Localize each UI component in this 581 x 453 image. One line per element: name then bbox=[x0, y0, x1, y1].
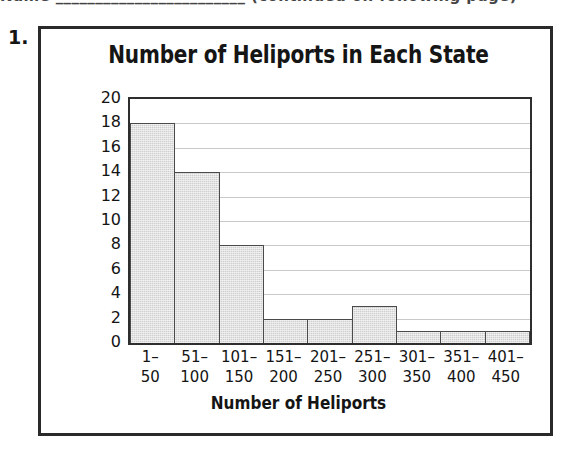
bar bbox=[130, 123, 175, 343]
y-tick-label: 14 bbox=[85, 163, 121, 179]
x-tick-label-line: 50 bbox=[128, 367, 172, 387]
y-tick-label: 16 bbox=[85, 139, 121, 155]
x-tick-label: 351–400 bbox=[439, 347, 483, 387]
plot-area bbox=[128, 97, 532, 345]
x-tick-label-line: 150 bbox=[217, 367, 261, 387]
page-header-text: Name ________________________ (continued… bbox=[0, 0, 581, 5]
bar bbox=[396, 331, 441, 343]
x-tick-label-line: 251– bbox=[350, 347, 394, 367]
x-tick-label-line: 400 bbox=[439, 367, 483, 387]
y-tick-label: 10 bbox=[85, 212, 121, 228]
bar bbox=[174, 172, 219, 343]
x-tick-label-line: 101– bbox=[217, 347, 261, 367]
y-tick-label: 20 bbox=[85, 90, 121, 106]
bar bbox=[219, 245, 264, 343]
page-header-cutoff: Name ________________________ (continued… bbox=[0, 0, 581, 5]
y-tick-label: 12 bbox=[85, 188, 121, 204]
x-tick-label: 1–50 bbox=[128, 347, 172, 387]
x-tick-label-line: 1– bbox=[128, 347, 172, 367]
bar bbox=[440, 331, 485, 343]
x-tick-label-line: 300 bbox=[350, 367, 394, 387]
x-tick-label-line: 301– bbox=[395, 347, 439, 367]
bar bbox=[307, 319, 352, 343]
figure-frame: Number of Heliports in Each State Number… bbox=[38, 26, 553, 436]
x-tick-label: 301–350 bbox=[395, 347, 439, 387]
x-tick-label-line: 401– bbox=[484, 347, 528, 367]
y-tick-label: 4 bbox=[85, 285, 121, 301]
x-axis-ticks: 1–5051–100101–150151–200201–250251–30030… bbox=[128, 347, 528, 387]
x-axis-title: Number of Heliports bbox=[41, 393, 556, 413]
y-tick-label: 2 bbox=[85, 310, 121, 326]
x-tick-label-line: 450 bbox=[484, 367, 528, 387]
bar-series bbox=[130, 99, 530, 343]
x-tick-label-line: 250 bbox=[306, 367, 350, 387]
x-tick-label-line: 351– bbox=[439, 347, 483, 367]
x-tick-label: 201–250 bbox=[306, 347, 350, 387]
x-tick-label-line: 200 bbox=[261, 367, 305, 387]
x-tick-label: 251–300 bbox=[350, 347, 394, 387]
y-tick-label: 0 bbox=[85, 334, 121, 350]
y-tick-label: 18 bbox=[85, 114, 121, 130]
x-tick-label: 101–150 bbox=[217, 347, 261, 387]
x-tick-label-line: 51– bbox=[172, 347, 216, 367]
chart-title: Number of Heliports in Each State bbox=[59, 41, 538, 69]
bar bbox=[352, 306, 397, 343]
y-tick-label: 6 bbox=[85, 261, 121, 277]
x-tick-label: 401–450 bbox=[484, 347, 528, 387]
x-tick-label-line: 100 bbox=[172, 367, 216, 387]
x-tick-label-line: 350 bbox=[395, 367, 439, 387]
problem-number: 1. bbox=[8, 26, 28, 48]
x-tick-label-line: 151– bbox=[261, 347, 305, 367]
bar bbox=[263, 319, 308, 343]
bar bbox=[485, 331, 530, 343]
x-tick-label: 51–100 bbox=[172, 347, 216, 387]
x-tick-label-line: 201– bbox=[306, 347, 350, 367]
x-tick-label: 151–200 bbox=[261, 347, 305, 387]
y-tick-label: 8 bbox=[85, 236, 121, 252]
